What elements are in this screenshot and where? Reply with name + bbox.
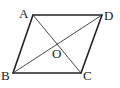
center-label-o: O — [52, 46, 61, 61]
diagram-svg: A D B C O — [0, 0, 120, 88]
vertex-label-a: A — [19, 6, 29, 21]
vertex-label-b: B — [1, 68, 10, 83]
vertex-label-d: D — [104, 8, 113, 23]
parallelogram-diagram: A D B C O — [0, 0, 120, 88]
vertex-label-c: C — [83, 68, 92, 83]
diagonal-bd — [13, 15, 102, 73]
side-ab — [13, 15, 33, 73]
side-cd — [81, 15, 102, 73]
